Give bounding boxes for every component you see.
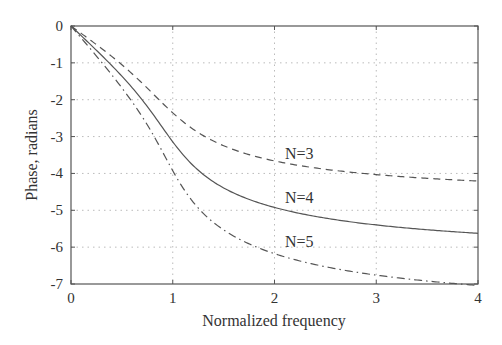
y-tick-label: -5 (51, 202, 64, 218)
x-tick-label: 2 (271, 290, 279, 306)
y-tick-label: 0 (56, 18, 64, 34)
y-tick-label: -2 (51, 92, 64, 108)
label-n5: N=5 (285, 233, 314, 250)
y-tick-label: -4 (51, 165, 64, 181)
y-tick-label: -7 (51, 276, 64, 292)
label-n3: N=3 (285, 145, 314, 162)
label-n4: N=4 (285, 189, 314, 206)
y-tick-label: -1 (51, 55, 64, 71)
x-tick-label: 1 (169, 290, 177, 306)
y-tick-label: -3 (51, 129, 64, 145)
y-tick-label: -6 (51, 239, 64, 255)
grid-lines (71, 26, 478, 284)
axis-ticks: 012340-1-2-3-4-5-6-7 (51, 18, 483, 306)
x-tick-label: 3 (373, 290, 381, 306)
x-axis-label: Normalized frequency (202, 312, 345, 330)
x-tick-label: 0 (67, 290, 75, 306)
phase-chart: 012340-1-2-3-4-5-6-7 N=3 N=4 N=5 Normali… (0, 0, 502, 345)
x-tick-label: 4 (474, 290, 482, 306)
y-axis-label: Phase, radians (23, 109, 40, 201)
